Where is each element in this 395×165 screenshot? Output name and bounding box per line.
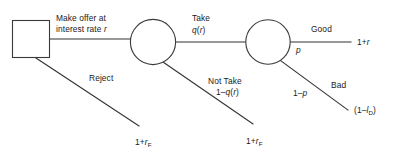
label-take-prob-arg: r — [200, 25, 203, 35]
node-borrower-circle — [130, 19, 175, 64]
label-take-prob-fn: q — [192, 25, 197, 35]
payoff-reject-prefix: 1+ — [135, 137, 145, 147]
label-reject: Reject — [89, 73, 113, 83]
node-nature-circle — [246, 20, 290, 64]
payoff-bad-open: (1– — [354, 105, 366, 115]
payoff-bad-close: ) — [373, 105, 376, 115]
payoff-good: 1+r — [357, 37, 370, 47]
edge-group — [36, 39, 351, 126]
label-bad-probability: 1–p — [293, 88, 307, 98]
label-not-take-prob-fn: q — [226, 87, 231, 97]
payoff-not-take-prefix: 1+ — [246, 136, 256, 146]
payoff-good-prefix: 1+ — [357, 37, 367, 47]
label-make-offer-line1: Make offer at — [56, 13, 107, 24]
edge-reject — [36, 58, 139, 126]
payoff-bad-sub: D — [368, 109, 373, 116]
label-take: Take — [192, 13, 210, 23]
label-bad: Bad — [331, 80, 346, 90]
payoff-good-var: r — [367, 37, 370, 47]
label-good-probability: p — [296, 45, 301, 55]
label-make-offer-line2-prefix: interest rate — [56, 24, 104, 34]
edge-not-take — [163, 62, 253, 124]
label-not-take-prob-arg: r — [233, 87, 236, 97]
payoff-reject-sub: F — [148, 141, 152, 148]
label-not-take-prob-prefix: 1– — [216, 87, 226, 97]
label-good: Good — [311, 24, 332, 34]
label-take-probability: q(r) — [192, 25, 205, 35]
game-tree-diagram: Make offer at interest rate r Reject 1+r… — [0, 0, 395, 165]
label-bad-prob-var: p — [303, 88, 308, 98]
payoff-reject: 1+rF — [135, 137, 152, 148]
label-make-offer-line2: interest rate r — [56, 24, 107, 35]
payoff-not-take-sub: F — [259, 140, 263, 147]
label-not-take: Not Take — [208, 76, 242, 86]
label-not-take-probability: 1–q(r) — [216, 87, 239, 97]
payoff-bad: (1–lD) — [354, 105, 376, 116]
label-make-offer: Make offer at interest rate r — [56, 13, 107, 35]
label-make-offer-rate-var: r — [104, 24, 107, 34]
payoff-not-take: 1+rF — [246, 136, 263, 147]
label-bad-prob-prefix: 1– — [293, 88, 303, 98]
node-bank-square — [13, 21, 50, 58]
